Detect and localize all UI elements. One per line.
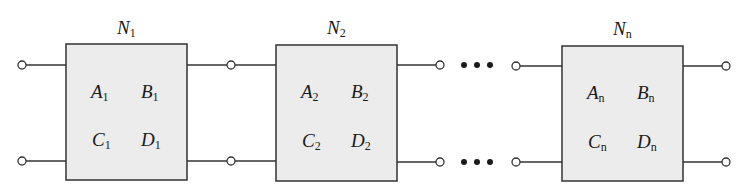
terminal-out-top-n — [722, 62, 730, 70]
terminal-out-bottom-n — [722, 158, 730, 166]
network-box-1 — [66, 44, 187, 180]
network-label-1: N1 — [116, 17, 136, 40]
ellipsis-dot-bottom-3 — [487, 159, 493, 165]
terminal-in-bottom-n — [512, 158, 520, 166]
ellipsis-dot-bottom-1 — [461, 159, 467, 165]
two-port-cascade-diagram: N1 A1 B1 C1 D1 N2 A2 B2 C2 D2 Nn An Bn C… — [0, 0, 747, 196]
ellipsis-dots — [461, 62, 493, 165]
ellipsis-dot-top-3 — [487, 62, 493, 68]
terminal-mid-bottom-1-2 — [227, 157, 235, 165]
ellipsis-dot-top-2 — [474, 62, 480, 68]
ellipsis-dot-top-1 — [461, 62, 467, 68]
network-label-n: Nn — [612, 18, 632, 41]
terminal-in-bottom-1 — [18, 157, 26, 165]
network-boxes — [66, 44, 683, 181]
network-label-2: N2 — [326, 17, 346, 40]
terminal-out-bottom-2 — [436, 158, 444, 166]
terminal-mid-top-1-2 — [227, 61, 235, 69]
terminal-in-top-n — [512, 62, 520, 70]
network-box-n — [562, 46, 683, 181]
ellipsis-dot-bottom-2 — [474, 159, 480, 165]
terminal-out-top-2 — [436, 61, 444, 69]
terminal-in-top-1 — [18, 61, 26, 69]
network-box-2 — [276, 45, 397, 181]
